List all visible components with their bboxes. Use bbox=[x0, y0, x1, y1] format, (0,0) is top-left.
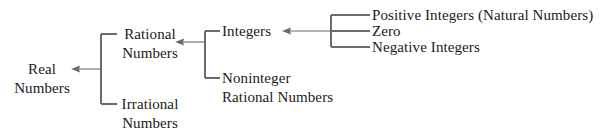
node-noninteger-rational-numbers: Noninteger Rational Numbers bbox=[222, 69, 352, 107]
node-negative-integers: Negative Integers bbox=[372, 38, 532, 57]
node-real-numbers: Real Numbers bbox=[6, 60, 78, 98]
node-integers: Integers bbox=[222, 22, 292, 41]
node-rational-numbers: Rational Numbers bbox=[117, 25, 183, 63]
node-irrational-numbers: Irrational Numbers bbox=[117, 95, 183, 131]
number-classification-diagram: Real Numbers Rational Numbers Irrational… bbox=[0, 0, 614, 131]
